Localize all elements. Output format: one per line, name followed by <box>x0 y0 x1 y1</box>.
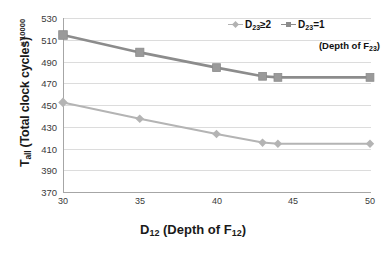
y-tick-label: 430 <box>31 122 57 133</box>
gridline <box>64 83 371 84</box>
legend-label-subscript: 23 <box>305 24 313 31</box>
y-tick-label: 410 <box>31 144 57 155</box>
gridline <box>64 62 371 63</box>
x-axis-title-rest: (Depth of F <box>159 222 231 237</box>
x-tick-label: 40 <box>204 196 230 206</box>
x-tick-label: 35 <box>127 196 153 206</box>
legend-line-icon <box>228 20 243 29</box>
gridline <box>64 105 371 106</box>
y-tick-label: 450 <box>31 100 57 111</box>
y-tick-label: 390 <box>31 165 57 176</box>
x-axis-title-subscript2: 12 <box>232 228 242 238</box>
y-axis-title-main: T <box>18 160 32 167</box>
legend-label-suffix: =1 <box>313 19 324 30</box>
legend-note-suffix: ) <box>377 40 380 51</box>
legend-entry-d23-ge-2[interactable]: D23≥2 <box>228 19 271 30</box>
legend-label-suffix: ≥2 <box>260 19 271 30</box>
legend-line-icon <box>281 20 296 29</box>
legend-note-subscript: 23 <box>369 45 377 52</box>
gridline <box>64 127 371 128</box>
x-axis-title-main: D <box>140 222 149 237</box>
x-tick-label: 45 <box>280 196 306 206</box>
gridline <box>64 170 371 171</box>
y-tick-label: 470 <box>31 78 57 89</box>
x-tick-label: 50 <box>357 196 383 206</box>
legend-note: (Depth of F23) <box>236 40 380 51</box>
y-tick-label: 510 <box>31 35 57 46</box>
legend-entry-d23-eq-1[interactable]: D23=1 <box>281 19 324 30</box>
gridline <box>64 149 371 150</box>
legend-label: D23≥2 <box>245 19 271 30</box>
legend-label-subscript: 23 <box>252 24 260 31</box>
x-axis-title: D12 (Depth of F12) <box>0 222 386 237</box>
x-axis-title-end: ) <box>242 222 246 237</box>
legend-note-prefix: (Depth of F <box>319 40 369 51</box>
legend-label: D23=1 <box>298 19 324 30</box>
chart-container: Tall (Total clock cycles) x 10000 530 51… <box>0 0 386 253</box>
y-tick-label: 530 <box>31 13 57 24</box>
y-axis-multiplier: x 10000 <box>18 3 27 63</box>
chart-legend: D23≥2 D23=1 <box>228 16 380 32</box>
x-axis-title-subscript: 12 <box>149 228 159 238</box>
y-tick-label: 490 <box>31 57 57 68</box>
x-tick-label: 30 <box>50 196 76 206</box>
